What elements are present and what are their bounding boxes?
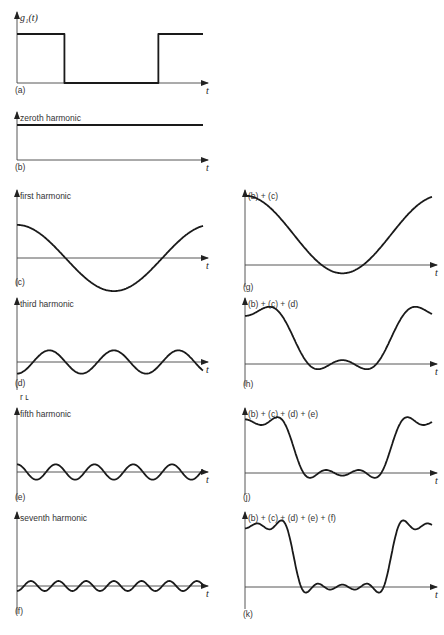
panel-tag: (b) [15, 162, 26, 172]
panel-j: t(b) + (c) + (d) + (e)(j) [243, 408, 438, 502]
waveform-j [245, 417, 432, 478]
panel-title: fifth harmonic [20, 409, 72, 419]
t-axis-label: t [206, 162, 209, 173]
t-axis-label: t [435, 366, 438, 377]
waveform-a [17, 34, 203, 83]
panel-a: tg₁(t)(a) [15, 12, 209, 96]
panel-title: zeroth harmonic [20, 113, 82, 123]
t-axis-label: t [435, 267, 438, 278]
panel-title: (b) + (c) + (d) + (e) + (f) [248, 513, 336, 523]
panel-title: g₁(t) [20, 12, 39, 24]
panel-tag: (j) [243, 492, 251, 502]
panel-tag: (k) [243, 609, 253, 619]
panel-tag: (h) [243, 379, 254, 389]
waveform-h [245, 307, 432, 369]
t-axis-label: t [206, 85, 209, 96]
panel-tag: (g) [243, 282, 254, 292]
t-axis-label: t [435, 589, 438, 600]
panel-g: t(b) + (c)(g) [243, 190, 438, 292]
t-axis-label: t [206, 474, 209, 485]
t-axis-label: t [206, 588, 209, 599]
t-axis-label: t [206, 364, 209, 375]
panel-b: tzeroth harmonic(b) [15, 112, 209, 173]
panel-title: (b) + (c) + (d) + (e) [248, 409, 318, 419]
panel-tag: (e) [15, 492, 26, 502]
panel-tag: (d) [15, 378, 26, 388]
panel-f: tseventh harmonic(f) [15, 512, 209, 616]
panel-tag: (f) [15, 606, 23, 616]
fourier-synthesis-figure: tg₁(t)(a)tzeroth harmonic(b)tfirst harmo… [0, 0, 444, 635]
t-axis-label: t [206, 260, 209, 271]
panel-tag: (c) [15, 277, 25, 287]
t-axis-label: t [435, 475, 438, 486]
panel-e: tfifth harmonic(e) [15, 408, 209, 502]
panel-c: tfirst harmonic(c) [15, 190, 209, 291]
panel-title: third harmonic [20, 299, 75, 309]
panel-title: first harmonic [20, 191, 72, 201]
waveform-g [245, 196, 432, 274]
panel-k: t(b) + (c) + (d) + (e) + (f)(k) [243, 512, 438, 619]
panel-tag: (a) [15, 85, 26, 95]
stray-marks: r ʟ [20, 392, 29, 402]
panel-d: tthird harmonic(d) [15, 298, 209, 390]
panel-title: seventh harmonic [20, 513, 88, 523]
panel-h: t(b) + (c) + (d)(h) [243, 298, 438, 389]
waveform-k [245, 520, 432, 592]
